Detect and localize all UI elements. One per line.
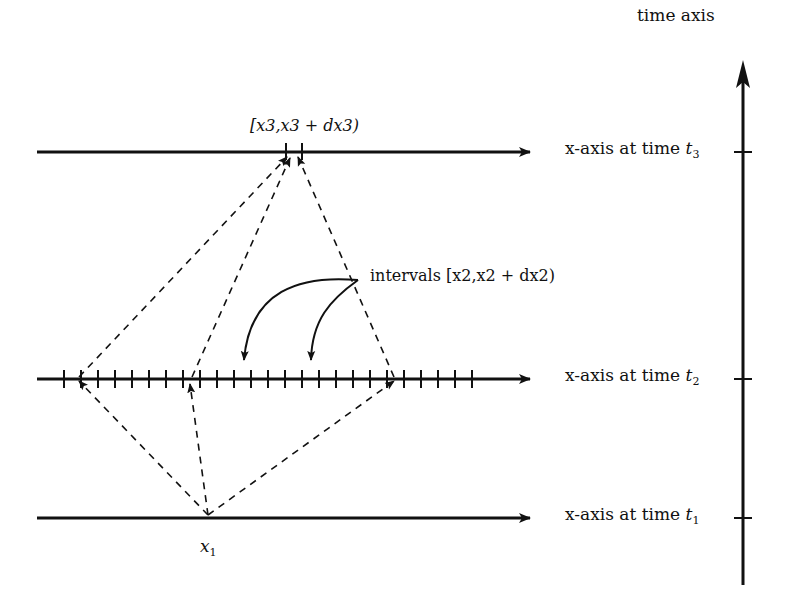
time-subscript: 3 bbox=[692, 148, 699, 161]
time-subscript: 1 bbox=[692, 514, 699, 527]
x-axis-label-text: x-axis at time bbox=[565, 365, 686, 385]
x-axis-label-text: x-axis at time bbox=[565, 504, 686, 524]
interval-pointer-arrows bbox=[244, 279, 358, 360]
x-axis-t2-label: x-axis at time t2 bbox=[565, 367, 699, 387]
time-axis-label: time axis bbox=[637, 7, 715, 24]
dashed-paths bbox=[79, 157, 394, 515]
time-axis bbox=[734, 60, 752, 585]
intervals-x2-label: intervals [x2,x2 + dx2) bbox=[370, 268, 555, 284]
interval-x3-label: [x3,x3 + dx3) bbox=[250, 118, 359, 134]
time-subscript: 2 bbox=[692, 375, 699, 388]
x-axis-t3-label: x-axis at time t3 bbox=[565, 140, 699, 160]
x-axis-label-text: x-axis at time bbox=[565, 138, 686, 158]
x-axis-t1-label: x-axis at time t1 bbox=[565, 506, 699, 526]
path-integral-diagram: time axis x-axis at time t3 x-axis at ti… bbox=[0, 0, 805, 611]
x-axis-t2 bbox=[37, 370, 530, 388]
x-axis-t3 bbox=[37, 143, 530, 160]
x-symbol: x bbox=[200, 536, 210, 556]
x-subscript: 1 bbox=[210, 546, 217, 559]
point-x1-label: x1 bbox=[200, 538, 217, 558]
